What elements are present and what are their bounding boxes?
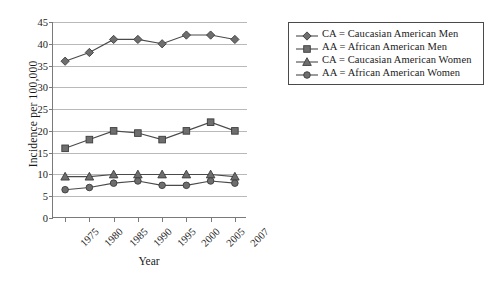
- circle-marker: [183, 182, 190, 189]
- x-tick-mark: [114, 218, 115, 222]
- series-line: [65, 35, 235, 61]
- x-tick-mark: [186, 218, 187, 222]
- x-tick-label: 2005: [224, 226, 247, 249]
- diamond-marker: [85, 48, 93, 56]
- y-tick-label: 30: [38, 82, 49, 93]
- circle-legend-icon: [295, 67, 319, 79]
- chart-legend: CA = Caucasian American MenAA = African …: [288, 22, 484, 85]
- legend-item[interactable]: CA = Caucasian American Men: [295, 27, 477, 40]
- diamond-marker: [110, 35, 118, 43]
- y-tick-label: 45: [38, 17, 49, 28]
- x-tick-mark: [138, 218, 139, 222]
- square-marker: [110, 128, 117, 135]
- y-tick-label: 40: [38, 38, 49, 49]
- circle-marker: [232, 180, 239, 187]
- legend-label: AA = African American Men: [322, 41, 447, 52]
- x-axis-title: Year: [52, 255, 246, 267]
- legend-label: CA = Caucasian American Women: [322, 54, 472, 65]
- y-tick-label: 25: [38, 104, 49, 115]
- square-marker: [304, 45, 311, 52]
- square-marker: [207, 119, 214, 126]
- y-tick-label: 35: [38, 60, 49, 71]
- diamond-marker: [158, 40, 166, 48]
- diamond-marker: [61, 57, 69, 65]
- x-tick-label: 2007: [248, 226, 271, 249]
- circle-marker: [110, 180, 117, 187]
- plot-area: 051015202530354045 197519801985199019952…: [52, 22, 246, 218]
- y-tick-label: 0: [43, 213, 48, 224]
- square-marker: [135, 130, 142, 137]
- square-marker: [183, 128, 190, 135]
- y-tick-mark: [49, 218, 53, 219]
- x-tick-label: 1985: [127, 226, 150, 249]
- circle-marker: [86, 184, 93, 191]
- y-tick-label: 15: [38, 147, 49, 158]
- series-line: [65, 122, 235, 148]
- legend-item[interactable]: AA = African American Men: [295, 40, 477, 53]
- diamond-marker: [231, 35, 239, 43]
- x-tick-label: 1980: [103, 226, 126, 249]
- diamond-marker: [182, 31, 190, 39]
- x-tick-label: 1995: [175, 226, 198, 249]
- legend-item[interactable]: AA = African American Women: [295, 66, 477, 79]
- x-tick-label: 1990: [151, 226, 174, 249]
- diamond-marker: [207, 31, 215, 39]
- series-0: [61, 31, 239, 65]
- x-tick-mark: [211, 218, 212, 222]
- circle-marker: [62, 186, 69, 193]
- x-tick-mark: [89, 218, 90, 222]
- circle-marker: [135, 178, 142, 185]
- legend-label: AA = African American Women: [322, 67, 460, 78]
- x-tick-mark: [235, 218, 236, 222]
- circle-marker: [207, 178, 214, 185]
- diamond-marker: [303, 31, 311, 39]
- x-tick-mark: [162, 218, 163, 222]
- triangle-legend-icon: [295, 54, 319, 66]
- x-tick-label: 1975: [78, 226, 101, 249]
- square-legend-icon: [295, 41, 319, 53]
- circle-marker: [304, 71, 311, 78]
- x-tick-label: 2000: [200, 226, 223, 249]
- x-tick-mark: [65, 218, 66, 222]
- y-tick-label: 5: [43, 191, 48, 202]
- square-marker: [86, 136, 93, 143]
- incidence-line-chart: Incidence per 100,000 051015202530354045…: [0, 0, 494, 281]
- legend-item[interactable]: CA = Caucasian American Women: [295, 53, 477, 66]
- y-tick-label: 10: [38, 169, 49, 180]
- legend-label: CA = Caucasian American Men: [322, 28, 458, 39]
- square-marker: [62, 145, 69, 152]
- diamond-legend-icon: [295, 28, 319, 40]
- y-tick-label: 20: [38, 125, 49, 136]
- square-marker: [232, 128, 239, 135]
- circle-marker: [159, 182, 166, 189]
- series-layer: [53, 22, 247, 218]
- series-1: [62, 119, 238, 152]
- diamond-marker: [134, 35, 142, 43]
- square-marker: [159, 136, 166, 143]
